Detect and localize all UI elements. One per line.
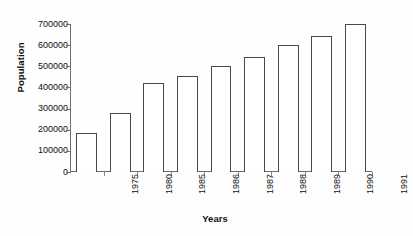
bar-1990	[311, 36, 332, 172]
bar-1989	[278, 45, 299, 172]
x-axis-tick-label-1987: 1987	[266, 174, 275, 214]
bar-1985	[143, 83, 164, 172]
y-axis-tick-label: 700000	[20, 20, 68, 29]
x-axis-tick-label-1985: 1985	[198, 174, 207, 214]
bar-series	[70, 24, 372, 172]
x-axis-tick-label-1988: 1988	[299, 174, 308, 214]
x-axis-title: Years	[160, 213, 270, 224]
x-axis-tick-labels: 197519801985198619871988198919901991	[70, 172, 372, 212]
bar-1986	[177, 76, 198, 172]
x-axis-tick-label-1980: 1980	[165, 174, 174, 214]
y-axis-tick-label: 300000	[20, 104, 68, 113]
bar-1975	[76, 133, 97, 172]
x-axis-tick-label-1991: 1991	[400, 174, 409, 214]
y-axis-tick-label: 400000	[20, 83, 68, 92]
x-axis-tick-label-1975: 1975	[131, 174, 140, 214]
y-axis-tick-label: 200000	[20, 125, 68, 134]
x-axis-tick-label-1986: 1986	[232, 174, 241, 214]
y-axis-tick-label: 0	[20, 168, 68, 177]
bar-1988	[244, 57, 265, 172]
bar-chart-figure: Population 01000002000003000004000005000…	[0, 0, 413, 236]
y-axis-tick-label: 600000	[20, 41, 68, 50]
bar-1987	[211, 66, 232, 172]
y-axis-tick-label: 100000	[20, 146, 68, 155]
y-axis-tick-label: 500000	[20, 62, 68, 71]
y-axis-tick-labels: 0100000200000300000400000500000600000700…	[20, 18, 68, 176]
bar-1980	[110, 113, 131, 172]
bar-1991	[345, 24, 366, 172]
x-axis-tick-label-1989: 1989	[333, 174, 342, 214]
x-axis-tick-label-1990: 1990	[366, 174, 375, 214]
plot-area	[70, 24, 372, 172]
